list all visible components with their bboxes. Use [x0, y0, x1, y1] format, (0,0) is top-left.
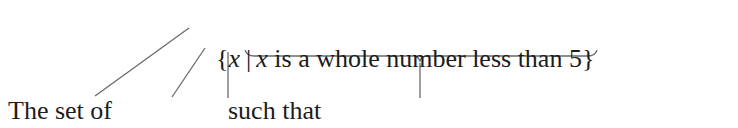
label-condition: x is a whole number less than 5: [378, 98, 730, 128]
open-brace: {: [216, 44, 228, 73]
close-brace: }: [582, 44, 594, 73]
set-builder-expression: {x|x is a whole number less than 5}: [190, 20, 594, 98]
label-condition-var: x: [404, 122, 416, 128]
connector-set-of: [95, 28, 189, 96]
label-the-set-of: The set of: [8, 98, 112, 124]
label-condition-text: is a whole number less than 5: [416, 122, 730, 128]
condition-text: is a whole number less than 5: [268, 44, 582, 73]
condition-variable: x: [256, 44, 268, 73]
label-such-that: such that: [228, 98, 321, 124]
such-that-bar: |: [240, 44, 256, 73]
label-all-x: all x: [150, 98, 220, 128]
variable-x: x: [228, 44, 240, 73]
label-all-var: x: [209, 122, 221, 128]
set-builder-diagram: {x|x is a whole number less than 5} The …: [0, 0, 738, 128]
label-all-text: all: [176, 122, 209, 128]
